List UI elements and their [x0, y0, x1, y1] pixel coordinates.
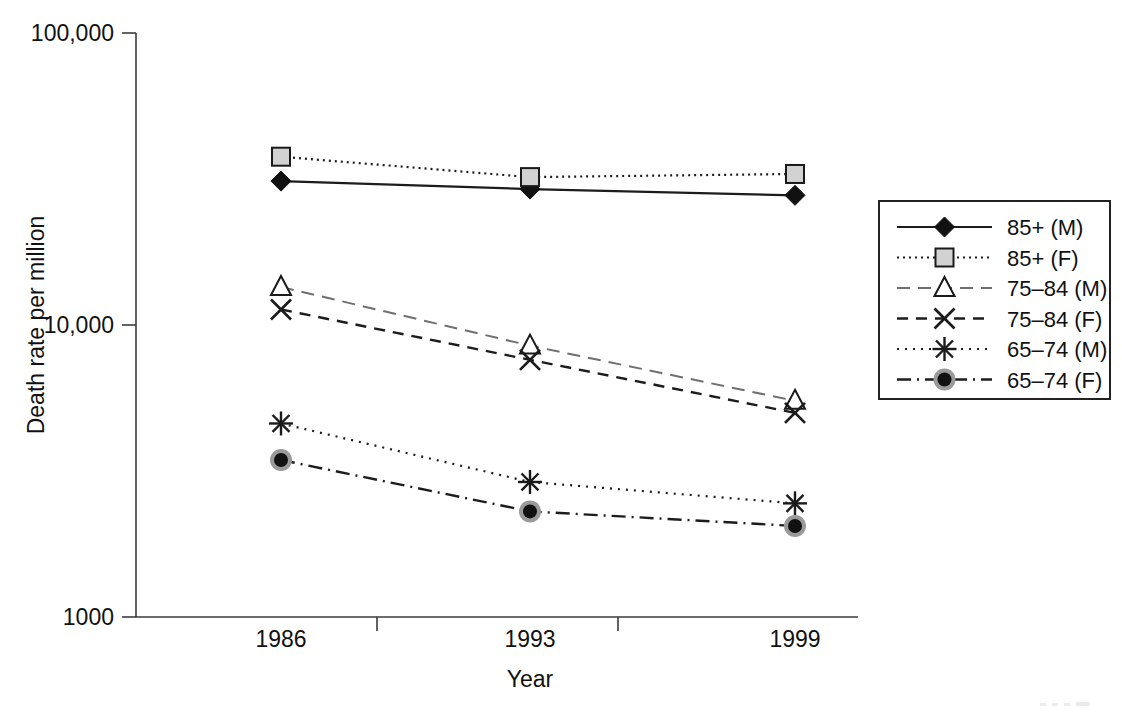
series-line-3	[281, 310, 795, 413]
series-line-4	[281, 423, 795, 503]
square-marker-icon	[786, 165, 804, 183]
legend-label-0: 85+ (M)	[1007, 215, 1083, 240]
data-point-5-1	[519, 500, 541, 522]
y-tick-label-1000: 1000	[63, 604, 114, 630]
data-point-1-0	[272, 148, 290, 166]
data-point-3-0	[271, 300, 291, 320]
square-marker-icon	[521, 168, 539, 186]
y-tick-label-100000: 100,000	[31, 20, 114, 46]
series-1	[272, 148, 804, 186]
circle-marker-icon	[788, 519, 802, 533]
data-point-4-0	[269, 411, 293, 435]
line-chart-svg: 100,000 10,000 1000 Death rate per milli…	[0, 0, 1122, 719]
triangle-marker-icon	[271, 276, 291, 295]
square-marker-icon	[272, 148, 290, 166]
data-point-0-0	[271, 171, 291, 191]
legend-label-4: 65–74 (M)	[1007, 337, 1107, 362]
data-point-4-1	[518, 470, 542, 494]
series-layer	[269, 148, 807, 537]
x-tick-label-1999: 1999	[769, 626, 820, 652]
diamond-marker-icon	[785, 185, 805, 205]
legend-label-1: 85+ (F)	[1007, 246, 1079, 271]
data-point-1-1	[521, 168, 539, 186]
data-point-2-1	[520, 335, 540, 354]
x-tick-label-1993: 1993	[504, 626, 555, 652]
data-point-5-0	[270, 449, 292, 471]
circle-marker-icon	[274, 453, 288, 467]
data-point-1-2	[786, 165, 804, 183]
data-point-legend-4	[933, 337, 957, 361]
data-point-legend-5	[934, 369, 956, 391]
y-tick-label-10000: 10,000	[44, 312, 114, 338]
legend-label-5: 65–74 (F)	[1007, 368, 1102, 393]
scan-artifacts	[1040, 702, 1090, 706]
data-point-5-2	[784, 515, 806, 537]
triangle-marker-icon	[520, 335, 540, 354]
series-5	[270, 449, 806, 537]
series-3	[271, 300, 805, 423]
series-4	[269, 411, 807, 515]
legend-label-2: 75–84 (M)	[1007, 276, 1107, 301]
data-point-4-2	[783, 491, 807, 515]
legend: 85+ (M)85+ (F)75–84 (M)75–84 (F)65–74 (M…	[879, 201, 1110, 399]
square-marker-icon	[936, 249, 954, 267]
series-line-2	[281, 287, 795, 401]
circle-marker-icon	[938, 373, 952, 387]
data-point-legend-1	[936, 249, 954, 267]
diamond-marker-icon	[271, 171, 291, 191]
data-point-0-2	[785, 185, 805, 205]
x-tick-label-1986: 1986	[255, 626, 306, 652]
data-point-2-0	[271, 276, 291, 295]
circle-marker-icon	[523, 504, 537, 518]
legend-label-3: 75–84 (F)	[1007, 307, 1102, 332]
y-axis-title: Death rate per million	[23, 216, 49, 435]
series-2	[271, 276, 805, 409]
chart-figure: 100,000 10,000 1000 Death rate per milli…	[0, 0, 1122, 719]
x-axis-title: Year	[507, 666, 554, 692]
axis-group	[122, 33, 858, 631]
